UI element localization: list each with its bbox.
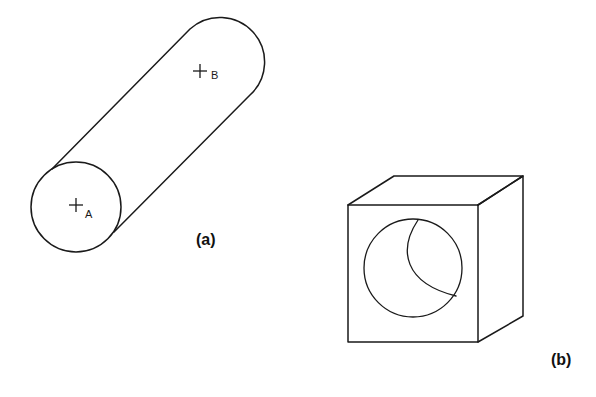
cube-right-face (478, 176, 523, 342)
cube-top-face (348, 176, 523, 205)
figure-sheet: A B (a) (b) (0, 0, 596, 397)
figure-b-cube (348, 176, 523, 342)
figure-a-caption: (a) (196, 231, 216, 249)
point-a-marker (69, 198, 83, 212)
point-a-label: A (85, 208, 93, 220)
figure-b-caption: (b) (551, 351, 571, 369)
cube-front-face (348, 205, 478, 342)
technical-drawing-canvas: A B (0, 0, 596, 397)
figure-a-cylinder: A B (31, 17, 265, 252)
cylinder-body-silhouette (52, 17, 265, 232)
point-b-label: B (211, 69, 218, 81)
cube-bore-far-rim-arc (407, 220, 456, 296)
cube-hole-circle (364, 219, 462, 317)
point-b-marker (193, 64, 207, 78)
